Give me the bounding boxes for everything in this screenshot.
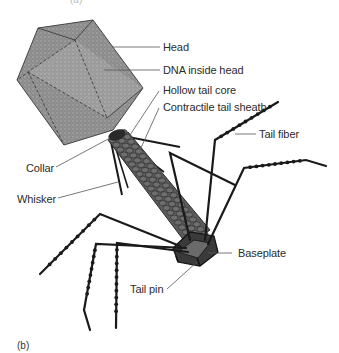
sheath-segment — [167, 210, 174, 215]
fiber-bead — [115, 268, 119, 272]
phage-diagram: (a) Head DNA inside head Hollow tail cor… — [0, 0, 339, 353]
fiber-bead — [250, 116, 254, 120]
fiber-bead — [92, 255, 96, 259]
sheath-segment — [147, 163, 154, 168]
fiber-bead — [225, 131, 229, 135]
label-head: Head — [163, 41, 189, 53]
fiber-bead — [93, 218, 97, 222]
sheath-segment — [131, 144, 138, 149]
fiber-bead — [238, 123, 242, 127]
sheath-segment — [128, 162, 135, 167]
sheath-segment — [189, 217, 196, 222]
fiber-bead — [90, 267, 94, 271]
head-capsid — [17, 20, 143, 145]
fiber-bead — [59, 251, 63, 255]
sheath-segment — [155, 196, 162, 201]
sheath-segment — [135, 149, 142, 154]
fiber-bead — [87, 279, 91, 283]
fiber-bead — [244, 120, 248, 124]
label-tail-pin: Tail pin — [130, 283, 163, 295]
sheath-segment — [155, 173, 162, 178]
sheath-segment — [172, 206, 179, 211]
fiber-bead — [298, 159, 302, 163]
fiber-bead — [86, 286, 90, 290]
fiber-bead — [115, 248, 119, 252]
fiber-bead — [255, 165, 259, 169]
sheath-segment — [128, 139, 135, 144]
fiber-bead — [114, 296, 118, 300]
sheath-segment — [144, 181, 151, 186]
fiber-bead — [93, 248, 97, 252]
sheath-segment — [124, 157, 131, 162]
sheath-segment — [145, 172, 152, 177]
sheath-segment — [113, 142, 120, 147]
fiber-bead — [48, 263, 52, 267]
sheath-segment — [157, 187, 164, 192]
sheath-segment — [159, 201, 166, 206]
sheath-segment — [174, 220, 181, 225]
fiber-bead — [292, 160, 296, 164]
fiber-bead — [81, 229, 85, 233]
sheath-segment — [138, 163, 145, 168]
fiber-bead — [114, 302, 118, 306]
sheath-segment — [132, 167, 139, 172]
label-tail-fiber: Tail fiber — [259, 128, 299, 140]
fiber-bead — [286, 161, 290, 165]
leader-sheath — [140, 108, 159, 150]
fiber-bead — [267, 163, 271, 167]
fiber-bead — [115, 255, 119, 259]
sheath-segment — [122, 143, 129, 148]
sheath-segment — [149, 177, 156, 182]
fiber-bead — [87, 223, 91, 227]
fiber-bead — [89, 273, 93, 277]
sheath-segment — [147, 186, 154, 191]
fiber-bead — [248, 165, 252, 169]
sheath-segment — [168, 201, 175, 206]
label-baseplate: Baseplate — [238, 247, 286, 259]
sheath-segment — [197, 227, 204, 232]
tail-sheath — [108, 129, 210, 246]
fiber-bead — [115, 282, 119, 286]
label-hollow-tail-core: Hollow tail core — [163, 84, 236, 96]
panel-label-b: (b) — [17, 340, 29, 351]
sheath-segment — [193, 222, 200, 227]
fiber-bead — [85, 292, 89, 296]
label-contractile-tail-sheath: Contractile tail sheath — [163, 101, 266, 113]
fiber-bead — [279, 161, 283, 165]
sheath-segment — [151, 191, 158, 196]
sheath-segment — [143, 159, 150, 164]
label-collar: Collar — [26, 162, 54, 174]
fiber-bead — [114, 289, 118, 293]
sheath-segment — [170, 193, 177, 198]
sheath-segment — [176, 211, 183, 216]
fiber-bead — [76, 235, 80, 239]
sheath-segment — [117, 147, 124, 152]
sheath-segment — [141, 167, 148, 172]
sheath-segment — [185, 212, 192, 217]
sheath-segment — [136, 171, 143, 176]
fiber-bead — [261, 164, 265, 168]
panel-label-a: (a) — [70, 0, 82, 5]
leader-tail-pin — [167, 262, 197, 289]
fiber-bead — [70, 240, 74, 244]
fiber-bead — [65, 246, 69, 250]
fiber-bead — [114, 309, 118, 313]
sheath-segment — [158, 178, 165, 183]
sheath-segment — [120, 152, 127, 157]
label-whisker: Whisker — [17, 193, 56, 205]
sheath-segment — [134, 158, 141, 163]
sheath-segment — [163, 205, 170, 210]
sheath-segment — [171, 215, 178, 220]
sheath-segment — [153, 182, 160, 187]
sheath-segment — [126, 148, 133, 153]
sheath-segment — [165, 197, 172, 202]
tail-fiber — [208, 160, 326, 244]
sheath-segment — [140, 176, 147, 181]
leader-whisker — [58, 182, 118, 198]
fiber-bead — [53, 257, 57, 261]
sheath-segment — [130, 153, 137, 158]
fiber-bead — [115, 262, 119, 266]
fiber-bead — [231, 127, 235, 131]
fiber-bead — [219, 134, 223, 138]
sheath-segment — [178, 225, 185, 230]
